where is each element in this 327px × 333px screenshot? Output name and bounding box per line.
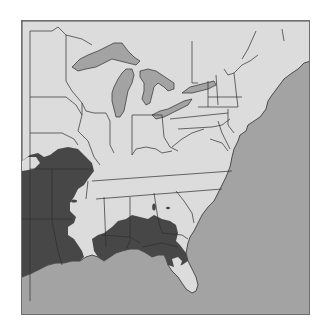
highlighted-spot <box>166 207 170 210</box>
map-frame <box>21 20 310 315</box>
map-canvas <box>22 21 310 315</box>
highlighted-spot <box>71 200 77 203</box>
highlighted-spot <box>152 204 156 211</box>
